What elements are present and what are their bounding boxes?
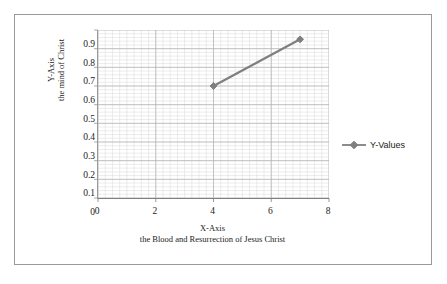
y-tick-label: 0.1 (61, 188, 95, 198)
y-tick-label: 0.7 (61, 76, 95, 86)
x-axis-title: X-Axis the Blood and Resurrection of Jes… (65, 223, 360, 244)
x-axis-title-line1: X-Axis (65, 223, 360, 234)
x-tick-label: 4 (198, 205, 228, 217)
plot-area (97, 30, 329, 199)
x-tick-label: 8 (313, 205, 343, 217)
legend-line-marker-icon (341, 139, 367, 151)
x-axis-title-line2: the Blood and Resurrection of Jesus Chri… (65, 234, 360, 245)
x-tick-label: 0 (82, 205, 112, 217)
x-axis-tick-labels: 02468 (97, 205, 328, 219)
legend-label-y-values: Y-Values (370, 140, 405, 150)
y-tick-label: 0.5 (61, 114, 95, 124)
x-tick-label: 6 (255, 205, 285, 217)
data-series-line[interactable] (98, 30, 329, 198)
chart-legend: Y-Values (341, 139, 405, 151)
y-axis-title-line1: Y-Axis (46, 58, 56, 82)
chart-frame: Y-Axis the mind of Christ 00.10.20.30.40… (14, 14, 432, 265)
x-tick-label: 2 (140, 205, 170, 217)
y-tick-label: 0.6 (61, 95, 95, 105)
y-tick-label: 0.2 (61, 170, 95, 180)
y-axis-tick-labels: 00.10.20.30.40.50.60.70.80.9 (61, 37, 95, 205)
y-tick-label: 0.8 (61, 58, 95, 68)
y-tick-label: 0.4 (61, 132, 95, 142)
y-tick-label: 0.3 (61, 151, 95, 161)
y-tick-label: 0.9 (61, 39, 95, 49)
